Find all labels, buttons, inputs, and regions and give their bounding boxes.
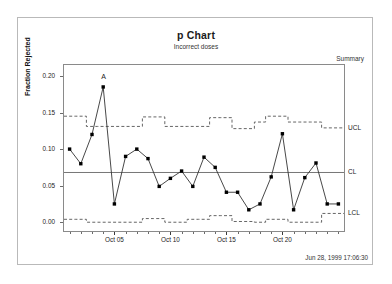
data-point xyxy=(202,155,205,158)
data-point xyxy=(258,202,261,205)
data-point xyxy=(124,155,127,158)
summary-label: Summary xyxy=(336,55,364,62)
x-axis-tick-label: Oct 15 xyxy=(206,236,246,243)
data-point xyxy=(326,202,329,205)
lcl-limit-line xyxy=(64,213,344,222)
data-point xyxy=(158,185,161,188)
chart-subtitle: Incorrect doses xyxy=(18,43,374,50)
data-point xyxy=(180,169,183,172)
timestamp-label: Jun 28, 1999 17:06:30 xyxy=(305,254,368,261)
y-axis-tick-label: 0.10 xyxy=(29,145,55,152)
data-point xyxy=(113,202,116,205)
data-point xyxy=(214,166,217,169)
x-axis-tick-label: Oct 20 xyxy=(262,236,302,243)
chart-canvas: p Chart Incorrect doses Summary Fraction… xyxy=(18,18,374,266)
lcl-label: LCL xyxy=(348,209,360,216)
data-point xyxy=(225,191,228,194)
y-axis-title: Fraction Rejected xyxy=(24,37,31,96)
plot-area xyxy=(63,64,345,232)
data-point xyxy=(102,85,105,88)
series-svg xyxy=(64,65,344,231)
data-point xyxy=(281,132,284,135)
ucl-label: UCL xyxy=(348,124,361,131)
cl-label: CL xyxy=(348,168,356,175)
data-point xyxy=(337,202,340,205)
data-point xyxy=(270,175,273,178)
page-title: p Chart xyxy=(18,29,374,41)
data-point xyxy=(68,147,71,150)
y-axis-tick-label: 0.00 xyxy=(29,218,55,225)
y-axis-tick-label: 0.20 xyxy=(29,72,55,79)
data-point xyxy=(135,147,138,150)
data-point xyxy=(314,161,317,164)
data-point xyxy=(90,133,93,136)
data-point xyxy=(191,185,194,188)
data-point xyxy=(79,162,82,165)
data-point xyxy=(146,157,149,160)
violation-annotation: A xyxy=(101,73,106,80)
y-axis-tick-label: 0.05 xyxy=(29,182,55,189)
x-axis-tick-label: Oct 05 xyxy=(94,236,134,243)
chart-window: p Chart Incorrect doses Summary Fraction… xyxy=(17,17,373,265)
data-point xyxy=(292,208,295,211)
data-point xyxy=(247,208,250,211)
data-point xyxy=(169,177,172,180)
data-line xyxy=(70,87,339,210)
data-point xyxy=(303,176,306,179)
x-axis-tick-label: Oct 10 xyxy=(150,236,190,243)
data-point xyxy=(236,191,239,194)
y-axis-tick-label: 0.15 xyxy=(29,109,55,116)
